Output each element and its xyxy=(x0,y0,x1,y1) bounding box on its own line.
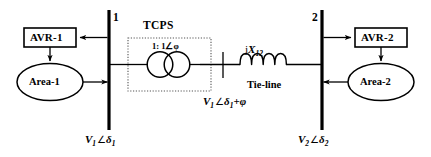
tcps-title: TCPS xyxy=(143,20,174,32)
power-system-diagram: AVR-1 AVR-2 Area-1 Area-2 1 2 TCPS 1: 1∠… xyxy=(0,0,431,157)
angle-icon: ∠ xyxy=(96,134,106,145)
angle-icon: ∠ xyxy=(309,134,319,145)
bus-1-number: 1 xyxy=(113,12,119,24)
tcps-ratio-label: 1: 1∠φ xyxy=(152,42,179,51)
tcps-winding-secondary xyxy=(164,52,190,78)
avr-1-label: AVR-1 xyxy=(30,32,63,43)
bus-2-number: 2 xyxy=(312,12,318,24)
reactance-subscript: 12 xyxy=(255,49,263,58)
bus-1-voltage-label: V1∠δ1 xyxy=(85,134,115,148)
bus1-delta-sub: 1 xyxy=(112,139,116,148)
bus-2-voltage-label: V2∠δ2 xyxy=(298,134,328,148)
area-1-label: Area-1 xyxy=(29,77,60,88)
bus2-delta-sub: 2 xyxy=(325,139,329,148)
angle-icon: ∠ xyxy=(214,96,224,107)
tcps-out-phi: φ xyxy=(240,95,246,107)
avr-2-label: AVR-2 xyxy=(361,32,394,43)
tcps-output-voltage-label: V1∠δ1+φ xyxy=(203,96,246,110)
tie-line-label: Tie-line xyxy=(247,80,281,91)
area-2-label: Area-2 xyxy=(360,77,391,88)
tie-line-reactance-label: jX12 xyxy=(245,44,263,58)
tcps-winding-primary xyxy=(147,52,173,78)
